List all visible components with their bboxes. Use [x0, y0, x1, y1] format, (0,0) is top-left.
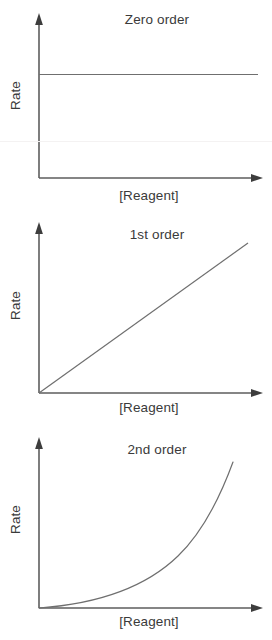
chart-title: Zero order [0, 12, 272, 27]
chart-title: 1st order [0, 227, 272, 242]
second-order-curve [39, 462, 233, 608]
x-axis-label: [Reagent] [0, 614, 272, 629]
x-axis [39, 174, 263, 182]
scan-seam [0, 141, 272, 142]
first-order-plot-svg [0, 214, 272, 427]
y-axis [35, 13, 43, 178]
y-axis-label: Rate [8, 74, 23, 118]
second-order-plot-svg [0, 428, 272, 640]
y-axis [35, 222, 43, 393]
x-axis [39, 389, 263, 397]
y-axis [35, 437, 43, 608]
y-axis-label: Rate [8, 498, 23, 542]
y-axis-label: Rate [8, 284, 23, 328]
zero-order-plot-svg [0, 0, 272, 213]
chart-panel-second-order: 2nd order [Reagent] Rate [0, 428, 272, 640]
reaction-order-figure: Zero order [Reagent] Rate 1st order [Rea… [0, 0, 272, 640]
chart-panel-zero-order: Zero order [Reagent] Rate [0, 0, 272, 213]
x-axis-label: [Reagent] [0, 400, 272, 415]
x-axis-label: [Reagent] [0, 188, 272, 203]
x-axis [39, 604, 263, 612]
chart-panel-first-order: 1st order [Reagent] Rate [0, 214, 272, 427]
first-order-curve [39, 243, 248, 393]
chart-title: 2nd order [0, 442, 272, 457]
